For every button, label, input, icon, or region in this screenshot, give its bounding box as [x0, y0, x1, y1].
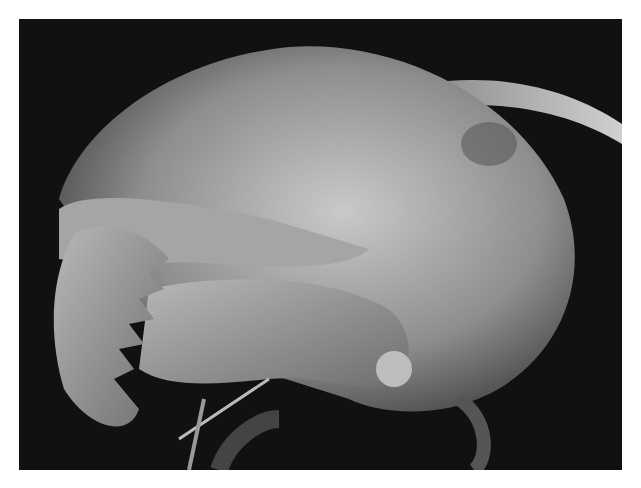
- ant-head-illustration: [19, 19, 622, 470]
- micrograph-image: SEM image of ant head: [19, 19, 622, 470]
- eye-region: [461, 122, 517, 166]
- mandible-lobe: [376, 351, 412, 387]
